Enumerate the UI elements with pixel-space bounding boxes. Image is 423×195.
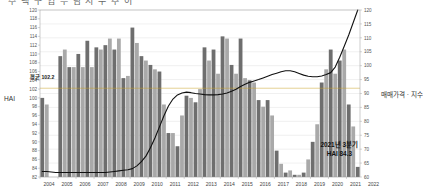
right-tick-label: 70 <box>364 147 370 152</box>
right-tick-label: 85 <box>364 105 370 110</box>
bar <box>171 133 175 177</box>
bar <box>261 107 265 177</box>
bar <box>108 39 112 177</box>
bar <box>180 115 184 177</box>
left-tick-label: 118 <box>30 16 38 21</box>
right-tick-label: 115 <box>364 22 372 27</box>
chart-title: 주 택 구 입 부 담 지 수 추 이 <box>8 0 133 7</box>
left-tick-label: 94 <box>32 122 38 127</box>
left-tick-label: 108 <box>29 60 37 65</box>
bar <box>342 50 346 177</box>
bar <box>257 100 261 177</box>
x-tick-label: 2010 <box>152 181 163 187</box>
bar <box>302 173 306 177</box>
left-tick-label: 102 <box>29 87 37 92</box>
bar <box>338 61 342 177</box>
x-tick-label: 2022 <box>368 181 379 187</box>
bar <box>311 142 315 177</box>
callout-line-1: 2021년 3분기 <box>320 140 358 149</box>
x-tick-label: 2017 <box>278 181 289 187</box>
bar <box>140 56 144 177</box>
bar <box>288 170 292 177</box>
bar <box>112 50 116 177</box>
left-tick-label: 90 <box>32 140 38 145</box>
bar <box>239 39 243 177</box>
left-tick-label: 86 <box>32 157 38 162</box>
bar <box>320 83 324 177</box>
bar <box>103 45 107 177</box>
x-tick-label: 2006 <box>80 181 91 187</box>
right-tick-label: 90 <box>364 91 370 96</box>
left-tick-label: 110 <box>30 52 38 57</box>
bar <box>67 67 71 177</box>
bar <box>189 98 193 177</box>
x-tick-label: 2016 <box>260 181 271 187</box>
bar <box>212 50 216 177</box>
bar <box>144 61 148 177</box>
callout-line-2: HAI 84.3 <box>327 150 353 157</box>
bar <box>203 47 207 177</box>
bar <box>284 173 288 177</box>
x-tick-label: 2007 <box>98 181 109 187</box>
x-tick-label: 2009 <box>134 181 145 187</box>
x-tick-label: 2004 <box>43 181 54 187</box>
bar <box>248 80 252 177</box>
average-line-label: 평균 102.2 <box>30 73 55 81</box>
x-tick-label: 2020 <box>332 181 343 187</box>
x-tick-label: 2015 <box>242 181 253 187</box>
bar <box>194 102 198 177</box>
left-tick-label: 100 <box>29 96 37 101</box>
bar <box>275 151 279 177</box>
left-tick-label: 116 <box>30 25 38 30</box>
bar <box>221 36 225 177</box>
x-tick-label: 2021 <box>350 181 361 187</box>
x-tick-label: 2013 <box>206 181 217 187</box>
bar <box>293 175 297 177</box>
bar <box>230 65 234 177</box>
chart-canvas: 1201181161141121101081061041021009896949… <box>0 0 423 195</box>
bar <box>90 67 94 177</box>
bar <box>198 89 202 177</box>
bar <box>279 164 283 177</box>
bar <box>117 39 121 177</box>
bar <box>297 175 301 177</box>
right-tick-label: 95 <box>364 77 370 82</box>
bar <box>85 41 89 177</box>
right-tick-label: 60 <box>364 175 370 180</box>
bar <box>207 61 211 177</box>
bar <box>58 56 62 177</box>
bar <box>40 98 44 177</box>
bar <box>216 74 220 177</box>
bar <box>324 69 328 177</box>
right-tick-label: 80 <box>364 119 370 124</box>
x-tick-label: 2011 <box>170 181 181 187</box>
bar <box>356 167 360 177</box>
bar <box>76 54 80 177</box>
bar <box>153 69 157 177</box>
left-tick-label: 114 <box>30 34 38 39</box>
bar <box>121 78 125 177</box>
left-tick-label: 82 <box>32 175 38 180</box>
bar <box>72 67 76 177</box>
bar <box>243 78 247 177</box>
left-tick-label: 120 <box>29 8 37 13</box>
bar <box>126 76 130 177</box>
bar <box>185 96 189 177</box>
bar <box>252 83 256 177</box>
right-axis-title: 매매가격 · 지수 <box>381 90 423 99</box>
x-tick-label: 2005 <box>61 181 72 187</box>
bar <box>176 146 180 177</box>
left-tick-label: 88 <box>32 148 38 153</box>
housing-affordability-chart: 주 택 구 입 부 담 지 수 추 이 12011811611411211010… <box>0 0 423 195</box>
left-tick-label: 92 <box>32 131 38 136</box>
bar <box>99 50 103 177</box>
bar <box>131 28 135 177</box>
x-tick-label: 2014 <box>224 181 235 187</box>
bar <box>167 133 171 177</box>
bar <box>63 50 67 177</box>
right-tick-label: 105 <box>364 49 372 54</box>
bar <box>225 39 229 177</box>
bar <box>270 115 274 177</box>
right-tick-label: 65 <box>364 161 370 166</box>
bar <box>333 74 337 177</box>
